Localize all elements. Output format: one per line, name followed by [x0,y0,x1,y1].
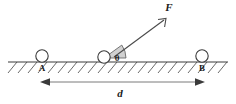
angle-label-theta: θ [115,53,120,63]
ball-middle [98,51,110,63]
force-vector-label: F [164,1,173,13]
distance-arrowhead-right [195,78,205,85]
distance-dimension-group [40,78,205,85]
distance-label-d: d [117,87,123,99]
force-vector-shaft [114,20,164,57]
physics-diagram-canvas: F θ A B d [0,0,236,104]
force-vector-group [114,19,166,58]
ball-a [36,50,48,62]
ball-a-label: A [39,63,46,73]
ball-b-label: B [199,63,205,73]
physics-diagram-root: F θ A B d [0,0,236,104]
distance-arrowhead-left [40,78,50,85]
force-vector-arrowhead [158,19,166,28]
ball-b [196,50,208,62]
